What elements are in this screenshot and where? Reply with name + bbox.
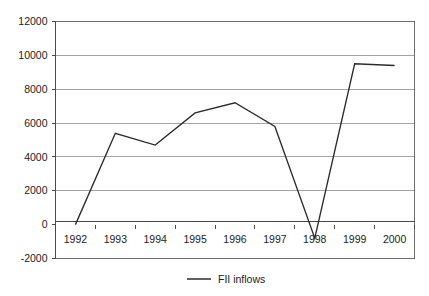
y-tick-label: 0 [42, 218, 48, 230]
y-tick-label: 8000 [24, 83, 48, 95]
chart-background [0, 0, 429, 296]
x-tick-label: 2000 [383, 233, 407, 245]
x-tick-label: 1993 [104, 233, 128, 245]
legend-label-fii-inflows: FII inflows [218, 273, 265, 285]
y-tick-label: -2000 [21, 252, 48, 264]
x-tick-label: 1997 [263, 233, 287, 245]
x-tick-label: 1992 [64, 233, 88, 245]
line-chart: -2000020004000600080001000012000 1992199… [0, 0, 429, 296]
y-tick-label: 2000 [24, 184, 48, 196]
y-tick-label: 10000 [18, 49, 47, 61]
chart-canvas: -2000020004000600080001000012000 1992199… [0, 0, 429, 296]
y-tick-label: 12000 [18, 15, 47, 27]
x-tick-label: 1999 [343, 233, 367, 245]
y-tick-label: 6000 [24, 117, 48, 129]
x-tick-label: 1994 [144, 233, 168, 245]
y-tick-label: 4000 [24, 151, 48, 163]
x-axis-labels: 199219931994199519961997199819992000 [64, 233, 407, 245]
x-tick-label: 1996 [223, 233, 247, 245]
x-tick-label: 1995 [183, 233, 207, 245]
